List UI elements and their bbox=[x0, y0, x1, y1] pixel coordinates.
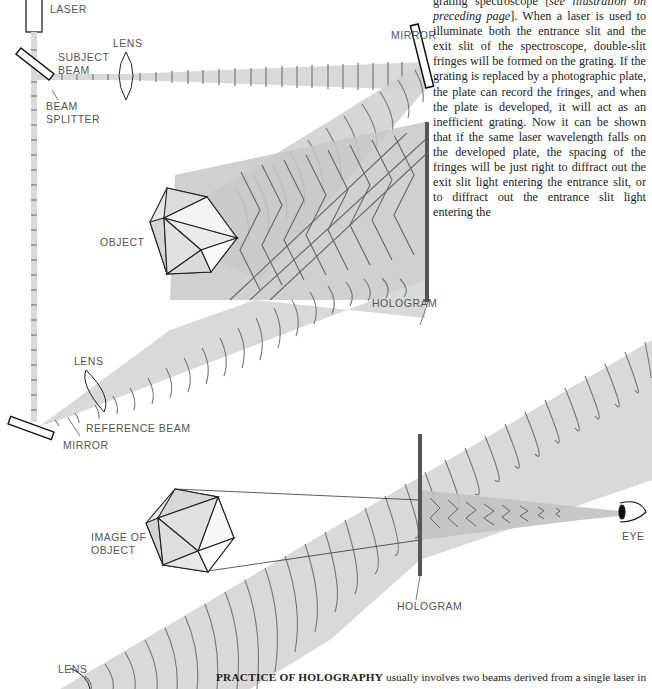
figure-page: LASER SUBJECT BEAM LENS MIRROR BEAM SPLI… bbox=[0, 0, 652, 689]
laser-beam bbox=[31, 32, 37, 422]
laser-device bbox=[26, 0, 42, 32]
body-text-rest: ]. When a laser is used to illuminate bo… bbox=[433, 9, 646, 219]
label-lens-reference: LENS bbox=[74, 355, 103, 368]
label-reference-beam: REFERENCE BEAM bbox=[86, 422, 190, 435]
label-eye: EYE bbox=[622, 530, 645, 543]
figure-caption: PRACTICE OF HOLOGRAPHY usually involves … bbox=[216, 671, 652, 683]
body-text-column: grating spectroscope [see illustration o… bbox=[433, 0, 646, 220]
label-hologram-bottom: HOLOGRAM bbox=[397, 600, 462, 613]
label-object: OBJECT bbox=[100, 236, 144, 249]
hologram-plate-bottom bbox=[418, 434, 422, 576]
label-mirror-bottom: MIRROR bbox=[63, 439, 109, 452]
eye-icon bbox=[619, 502, 646, 522]
hologram-plate-top bbox=[425, 122, 429, 302]
label-beam-splitter: BEAM SPLITTER bbox=[46, 100, 100, 126]
label-lens-subject: LENS bbox=[113, 37, 142, 50]
label-image-of-object: IMAGE OF OBJECT bbox=[91, 531, 146, 557]
image-of-object-icosahedron bbox=[146, 489, 234, 572]
caption-title: PRACTICE OF HOLOGRAPHY bbox=[216, 671, 383, 683]
label-lens-bottom: LENS bbox=[58, 663, 87, 676]
body-text-start: grating spectroscope [ bbox=[433, 0, 549, 8]
label-mirror-top: MIRROR bbox=[391, 29, 437, 42]
label-hologram-top: HOLOGRAM bbox=[372, 297, 437, 310]
caption-text: usually involves two beams derived from … bbox=[383, 671, 646, 683]
label-subject-beam: SUBJECT BEAM bbox=[58, 51, 109, 77]
label-laser: LASER bbox=[50, 3, 87, 16]
